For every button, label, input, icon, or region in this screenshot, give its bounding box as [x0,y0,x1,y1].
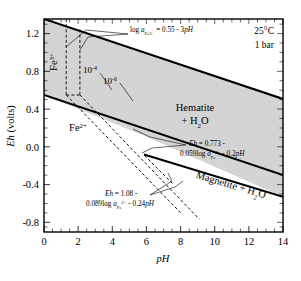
eh-ph-diagram-figure: 1.2 0.8 0.4 0.0 -0.4 -0.8 0 2 4 6 8 10 1… [0,0,301,281]
y-axis-title: Eh (volts) [5,105,17,148]
y-axis-title-symbol: Eh [5,135,16,148]
pressure-label: 1 bar [255,40,275,50]
mag-eq-l2-sub: Fe [117,205,122,210]
hem-eq-l2-ph: pH [235,150,246,158]
x-tick-label: 0 [41,236,46,247]
fe3-eq-ph: pH [183,26,194,34]
x-tick-label: 6 [144,236,149,247]
hematite-plus-h: + H [181,115,198,126]
x-tick-label: 8 [178,236,183,247]
x-tick-label: 12 [244,236,255,247]
fe3-eq-tail: = 0.55 - 3 [154,26,184,34]
hem-eq-l2-sub: Fe [211,155,216,160]
annotation-magnetite-equation-line1: Eh = 1.08 - [104,190,138,198]
y-tick-label: -0.4 [22,179,39,190]
hematite-o: O [201,115,209,126]
fe2-element: Fe [69,122,80,133]
hem-eq-l2-head: 0.059log [180,150,207,158]
mag-eq-l2-mid: - 0.24 [127,200,146,208]
svg-text:Eh (volts): Eh (volts) [5,105,17,148]
y-tick-label: 0.8 [26,66,39,77]
fe2-charge: 2+ [80,122,87,129]
y-tick-label: 0.0 [26,142,39,153]
fe3-eq-lead: log [130,26,141,34]
x-tick-label: 4 [110,236,116,247]
x-tick-label: 10 [209,236,220,247]
hem-eq-l1-tail: = 0.773 - [197,140,226,148]
mag-eq-eh: Eh [104,190,113,198]
y-tick-label: 0.4 [26,104,40,115]
y-tick-label: -0.8 [22,217,39,228]
contour-a-exp: -4 [92,65,97,71]
mag-eq-l2-head: 0.089log [86,200,113,208]
hem-eq-eh: Eh [188,140,197,148]
temperature-label: 25°C [254,26,274,36]
region-label-hematite: Hematite [176,102,215,113]
x-tick-label: 2 [75,236,80,247]
fe3-eq-sub: Fe3+ [145,31,155,36]
y-axis-title-unit: (volts) [5,105,17,133]
fe3-charge: 3+ [48,53,55,60]
eh-ph-pourbaix-chart: 1.2 0.8 0.4 0.0 -0.4 -0.8 0 2 4 6 8 10 1… [0,0,301,281]
contour-b-exp: -6 [112,76,117,82]
mag-eq-l2-ph: pH [144,200,155,208]
hem-eq-l2-mid: - 0.2 [221,150,236,158]
y-tick-label: 1.2 [26,28,39,39]
mag-eq-l1-tail: = 1.08 - [113,190,138,198]
x-axis-title: pH [156,253,171,264]
x-tick-label: 14 [278,236,289,247]
annotation-hematite-equation-line1: Eh = 0.773 - [188,140,226,148]
fe3-element: Fe [48,60,59,71]
